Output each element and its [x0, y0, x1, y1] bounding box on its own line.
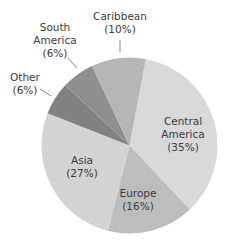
leader-line-other	[40, 89, 51, 96]
label-text: Central	[164, 115, 202, 127]
label-text: Asia	[71, 154, 93, 166]
label-text: America	[161, 128, 204, 140]
label-text: America	[33, 34, 76, 46]
label-other: Other(6%)	[10, 71, 40, 96]
label-percent: (10%)	[104, 23, 136, 35]
label-percent: (27%)	[66, 167, 98, 179]
label-europe: Europe(16%)	[120, 187, 157, 212]
label-caribbean: Caribbean(10%)	[93, 10, 147, 35]
label-percent: (16%)	[122, 200, 154, 212]
label-percent: (6%)	[43, 47, 68, 59]
label-south-america: SouthAmerica(6%)	[33, 21, 76, 59]
label-text: Other	[10, 71, 40, 83]
label-percent: (6%)	[13, 84, 38, 96]
pie-chart: CentralAmerica(35%)Europe(16%)Asia(27%)O…	[0, 0, 230, 248]
label-central-america: CentralAmerica(35%)	[161, 115, 204, 153]
leader-line-south-america	[68, 58, 77, 68]
label-percent: (35%)	[167, 141, 199, 153]
label-text: South	[40, 21, 71, 33]
label-text: Caribbean	[93, 10, 147, 22]
label-text: Europe	[120, 187, 157, 199]
